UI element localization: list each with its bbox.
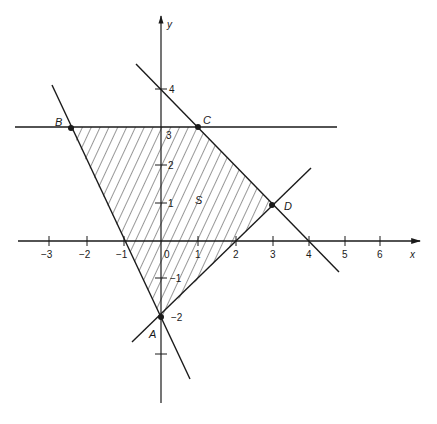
point-c [195,124,201,130]
svg-text:−3: −3 [41,249,53,260]
svg-text:2: 2 [168,160,174,171]
svg-text:4: 4 [306,249,312,260]
label-b: B [55,116,62,128]
svg-text:−1: −1 [116,249,128,260]
svg-text:3: 3 [166,130,172,141]
svg-text:−2: −2 [79,249,91,260]
region-label-s: S [195,194,203,206]
feasible-region-s [70,127,272,317]
svg-text:3: 3 [270,249,276,260]
label-a: A [148,328,156,340]
svg-text:6: 6 [377,249,383,260]
svg-text:−2: −2 [171,312,183,323]
svg-text:5: 5 [342,249,348,260]
label-c: C [203,114,211,126]
label-d: D [284,200,292,212]
svg-text:1: 1 [168,198,174,209]
svg-text:0: 0 [164,249,170,260]
svg-text:1: 1 [195,249,201,260]
svg-text:−1: −1 [170,273,182,284]
point-d [269,202,275,208]
svg-text:4: 4 [169,84,175,95]
point-a [158,314,164,320]
svg-text:2: 2 [233,249,239,260]
x-axis-label: x [409,249,416,260]
point-b [68,125,74,131]
y-axis-label: y [166,19,173,30]
feasible-region-diagram: A B C D S x y −3 −2 −1 0 1 2 3 4 5 6 4 3… [0,0,437,424]
